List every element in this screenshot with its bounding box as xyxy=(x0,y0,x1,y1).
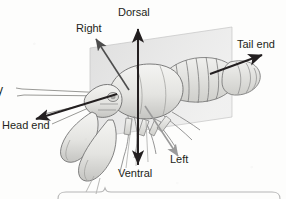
crayfish-direction-figure: Dorsal Ventral Right Left Head end Tail … xyxy=(0,0,286,199)
label-ventral: Ventral xyxy=(118,167,152,179)
label-dorsal: Dorsal xyxy=(118,6,150,18)
label-left: Left xyxy=(170,153,188,165)
chelipeds xyxy=(61,112,117,194)
tail-fan xyxy=(222,61,260,95)
label-tail-end: Tail end xyxy=(237,38,275,50)
label-partial-cropped-text: y xyxy=(0,84,3,96)
bottom-brace xyxy=(58,188,280,199)
label-right: Right xyxy=(76,22,102,34)
label-head-end: Head end xyxy=(2,119,50,131)
